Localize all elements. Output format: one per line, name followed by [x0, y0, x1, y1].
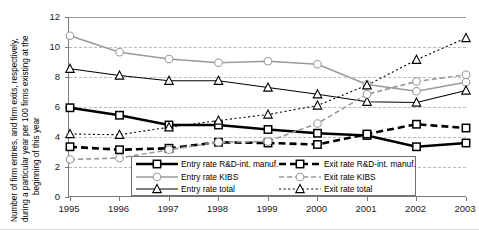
x-axis-tick	[416, 197, 417, 201]
data-point-marker	[314, 120, 322, 128]
data-point-marker	[313, 101, 321, 109]
data-point-marker	[413, 87, 421, 95]
x-axis-tick	[466, 197, 467, 201]
data-point-marker	[413, 78, 421, 86]
legend-marker-icon	[278, 158, 322, 170]
data-point-marker	[412, 55, 420, 63]
data-point-marker	[462, 33, 470, 41]
legend-item-exit_total[interactable]: Exit rate total	[278, 183, 416, 196]
x-axis-tick-label: 1996	[99, 203, 139, 214]
y-axis-tick-label: 4	[36, 131, 60, 142]
data-point-marker	[462, 71, 470, 79]
x-axis-tick	[70, 197, 71, 201]
data-point-marker	[462, 86, 470, 94]
y-axis-title-line-2: during a particular year per 100 firms e…	[21, 35, 30, 222]
data-point-marker	[363, 130, 370, 137]
x-axis-tick-label: 2001	[346, 203, 386, 214]
legend-column-entry: Entry rate R&D-int. manuf.Entry rate KIB…	[135, 158, 278, 196]
x-axis-tick	[367, 197, 368, 201]
figure-bottom-rule	[0, 229, 479, 230]
legend-marker-icon	[278, 171, 322, 183]
data-point-marker	[66, 156, 74, 164]
data-point-marker	[66, 64, 74, 72]
legend-item-entry_total[interactable]: Entry rate total	[135, 183, 278, 196]
legend-item-exit_rd[interactable]: Exit rate R&D-int. manuf.	[278, 158, 416, 171]
data-point-marker	[215, 138, 223, 146]
data-point-marker	[264, 138, 272, 146]
legend-item-label: Entry rate KIBS	[181, 172, 238, 182]
data-point-marker	[413, 121, 420, 128]
data-point-marker	[116, 154, 124, 162]
data-point-marker	[264, 57, 272, 65]
y-axis-tick-label: 8	[36, 71, 60, 82]
legend-item-entry_kibs[interactable]: Entry rate KIBS	[135, 171, 278, 184]
y-axis-tick	[65, 197, 69, 198]
data-point-marker	[66, 32, 74, 40]
data-point-marker	[116, 112, 123, 119]
legend-column-exit: Exit rate R&D-int. manuf.Exit rate KIBSE…	[278, 158, 416, 196]
data-point-marker	[66, 129, 74, 137]
y-axis-tick-label: 12	[36, 11, 60, 22]
x-axis-tick	[268, 197, 269, 201]
data-point-marker	[165, 146, 173, 154]
y-axis-tick-label: 2	[36, 161, 60, 172]
legend-swatch-exit_total	[278, 183, 322, 195]
data-point-marker	[116, 146, 123, 153]
x-axis-tick	[317, 197, 318, 201]
legend-swatch-entry_rd	[135, 158, 179, 170]
data-point-marker	[116, 48, 124, 56]
legend-item-label: Entry rate R&D-int. manuf.	[181, 159, 278, 169]
data-point-marker	[215, 59, 223, 67]
x-axis-tick	[119, 197, 120, 201]
y-axis-title-line-1: Number of firm entries, and firm exits, …	[10, 38, 19, 222]
legend-marker-icon	[135, 171, 179, 183]
data-point-marker	[153, 161, 160, 168]
x-axis-tick-label: 1995	[49, 203, 89, 214]
x-axis-tick-label: 2003	[445, 203, 479, 214]
chart-legend: Entry rate R&D-int. manuf.Entry rate KIB…	[131, 156, 416, 196]
data-point-marker	[462, 124, 469, 131]
legend-swatch-entry_kibs	[135, 171, 179, 183]
data-point-marker	[314, 130, 321, 137]
x-axis-tick-label: 1999	[247, 203, 287, 214]
legend-swatch-exit_kibs	[278, 171, 322, 183]
data-point-marker	[66, 104, 73, 111]
y-axis-title-line-3: beginning of this year	[32, 117, 41, 195]
legend-item-label: Entry rate total	[181, 184, 235, 194]
y-axis-title: Number of firm entries, and firm exits, …	[0, 0, 34, 230]
x-axis-tick-label: 1998	[198, 203, 238, 214]
x-axis-tick-label: 1997	[148, 203, 188, 214]
legend-marker-icon	[278, 183, 322, 195]
data-point-marker	[296, 173, 304, 181]
legend-marker-icon	[135, 158, 179, 170]
x-axis-tick	[169, 197, 170, 201]
data-point-marker	[264, 126, 271, 133]
legend-item-exit_kibs[interactable]: Exit rate KIBS	[278, 171, 416, 184]
legend-item-label: Exit rate KIBS	[324, 172, 376, 182]
data-point-marker	[153, 173, 161, 181]
x-axis-tick-label: 2002	[396, 203, 436, 214]
data-point-marker	[264, 110, 272, 118]
series-entry_total	[66, 64, 470, 106]
legend-marker-icon	[135, 183, 179, 195]
legend-item-label: Exit rate R&D-int. manuf.	[324, 159, 416, 169]
x-axis-tick-label: 2000	[297, 203, 337, 214]
data-point-marker	[314, 60, 322, 68]
data-point-marker	[462, 139, 469, 146]
y-axis-tick-label: 10	[36, 41, 60, 52]
data-point-marker	[296, 161, 303, 168]
legend-swatch-entry_total	[135, 183, 179, 195]
y-axis-tick-label: 0	[36, 191, 60, 202]
legend-swatch-exit_rd	[278, 158, 322, 170]
data-point-marker	[413, 143, 420, 150]
data-point-marker	[314, 141, 321, 148]
chart-figure: Number of firm entries, and firm exits, …	[0, 0, 479, 230]
y-axis-tick-label: 6	[36, 101, 60, 112]
data-point-marker	[363, 90, 371, 98]
data-point-marker	[66, 143, 73, 150]
x-axis-tick	[218, 197, 219, 201]
data-point-marker	[165, 55, 173, 63]
legend-item-entry_rd[interactable]: Entry rate R&D-int. manuf.	[135, 158, 278, 171]
legend-item-label: Exit rate total	[324, 184, 372, 194]
